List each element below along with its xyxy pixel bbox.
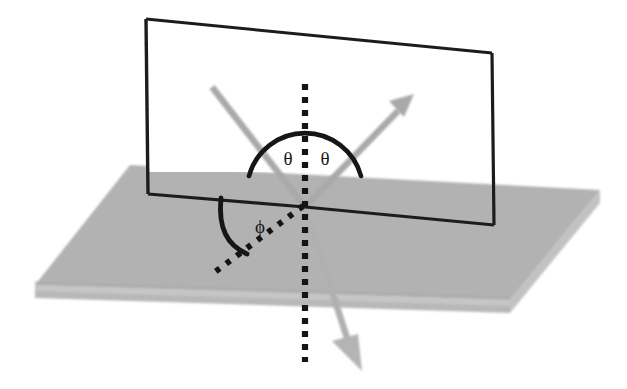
theta-incident-label: θ xyxy=(283,148,292,169)
plane-left-edge xyxy=(146,19,148,194)
phi-azimuth-label: ϕ xyxy=(255,216,265,237)
theta-reflected-label: θ xyxy=(320,148,329,169)
plane-right-edge xyxy=(492,53,494,225)
optics-diagram-figure: θ θ ϕ xyxy=(0,0,627,389)
diagram-canvas: θ θ ϕ xyxy=(0,0,627,389)
